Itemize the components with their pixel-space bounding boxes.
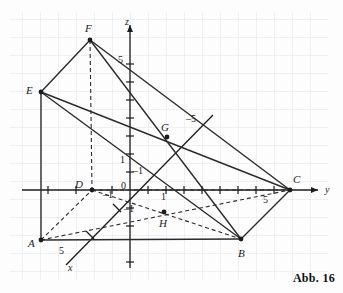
z-axis-arrow [127,25,133,32]
y-axis-arrow [311,187,318,193]
edge-E-F [41,40,90,92]
edge-A-C [41,190,290,240]
solid-edges [41,40,290,240]
figure-abb-16: A B C D E F G H y z x 5 5 5 –5 0 1 –1 1 … [0,0,343,293]
point-marker-H [162,210,167,215]
edge-A-B [41,239,241,240]
diagram-drawing [0,0,343,293]
edge-F-C [90,40,290,190]
edge-E-B [41,92,241,239]
point-marker-A [39,238,44,243]
edge-B-C [241,190,290,239]
figure-caption: Abb. 16 [293,271,335,286]
point-marker-E [39,90,44,95]
x-tick [86,231,94,239]
edge-D-B [92,190,241,239]
x-tick [113,204,121,212]
point-marker-D [90,188,95,193]
edge-E-C [41,92,290,190]
edge-A-D [41,190,92,240]
edge-F-B [90,40,241,239]
point-marker-G [165,135,170,140]
point-marker-C [288,188,293,193]
point-marker-B [239,237,244,242]
point-marker-F [88,38,93,43]
edge-F-D [90,40,92,190]
